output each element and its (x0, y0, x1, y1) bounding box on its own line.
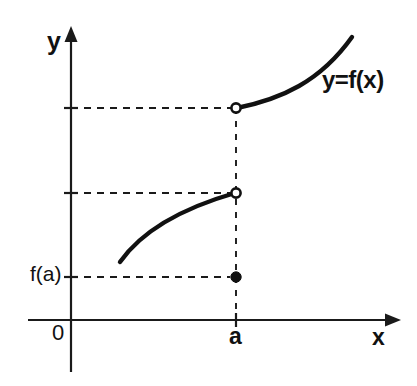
y-tick-label-f-of-a: f(a) (30, 263, 62, 284)
y-axis-label: y (47, 29, 61, 54)
guide-lines-group (71, 108, 236, 322)
origin-label: 0 (52, 322, 64, 344)
x-axis-arrow-icon (385, 314, 401, 327)
function-annotation: y=f(x) (322, 68, 384, 92)
x-tick-label-a: a (229, 325, 242, 348)
x-axis-label: x (372, 326, 385, 349)
axis-ticks-group (64, 108, 236, 327)
filled-dot-f-of-a (231, 272, 241, 282)
curve-left-branch (120, 193, 235, 262)
x-axis-group (28, 314, 401, 327)
open-circle-right-limit (231, 103, 240, 112)
y-axis-arrow-icon (65, 26, 78, 42)
open-circle-left-limit (231, 188, 240, 197)
graph-figure: y x 0 a f(a) y=f(x) (0, 0, 417, 386)
